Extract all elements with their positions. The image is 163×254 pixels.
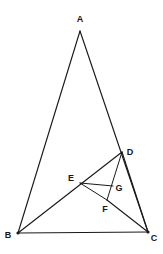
segment-dc xyxy=(122,152,148,232)
segments-layer xyxy=(18,31,148,233)
segment-bc xyxy=(18,232,148,233)
segment-ab xyxy=(18,31,80,233)
point-label-g: G xyxy=(115,184,122,193)
segment-df xyxy=(107,152,122,200)
vertex-dot-b xyxy=(16,231,19,234)
point-label-e: E xyxy=(68,174,74,183)
segment-fc xyxy=(107,200,148,232)
point-label-b: B xyxy=(5,231,12,240)
point-label-d: D xyxy=(127,148,134,157)
segment-bd xyxy=(18,152,122,233)
geometry-figure: ABCDEFG xyxy=(0,0,163,254)
point-label-c: C xyxy=(151,234,158,243)
vertex-dot-c xyxy=(146,230,149,233)
point-label-f: F xyxy=(102,205,108,214)
geometry-canvas xyxy=(0,0,163,254)
point-label-a: A xyxy=(77,15,84,24)
